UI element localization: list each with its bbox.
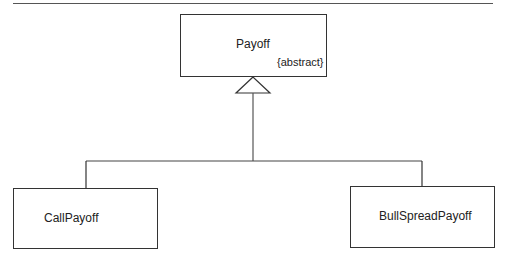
generalization-triangle-icon (236, 77, 270, 93)
class-box-callpayoff[interactable]: CallPayoff (13, 188, 158, 249)
class-box-bullspreadpayoff[interactable]: BullSpreadPayoff (350, 186, 495, 248)
class-name-callpayoff: CallPayoff (44, 211, 98, 225)
class-name-bullspreadpayoff: BullSpreadPayoff (379, 209, 472, 223)
class-name-payoff: Payoff (236, 37, 270, 51)
abstract-constraint: {abstract} (277, 56, 323, 68)
class-box-payoff[interactable]: Payoff {abstract} (180, 14, 327, 77)
